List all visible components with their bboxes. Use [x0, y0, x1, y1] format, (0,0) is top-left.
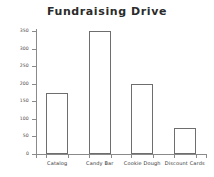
- bar: [46, 93, 68, 155]
- x-tick-mark: [153, 154, 154, 158]
- x-tick-mark: [89, 154, 90, 158]
- y-tick-mark: [32, 101, 36, 102]
- y-tick-mark: [32, 136, 36, 137]
- chart-title: Fundraising Drive: [0, 5, 214, 18]
- bar-chart: Fundraising Drive 050100150200250300350 …: [0, 0, 214, 177]
- y-tick-label: 300: [5, 46, 29, 51]
- y-axis-line: [36, 29, 37, 156]
- y-tick-mark: [32, 66, 36, 67]
- y-tick-label: 100: [5, 116, 29, 121]
- x-tick-label: Catalog: [36, 160, 79, 166]
- y-tick-label: 50: [5, 133, 29, 138]
- bar: [131, 84, 153, 154]
- x-tick-mark: [131, 154, 132, 158]
- y-tick-mark: [32, 119, 36, 120]
- x-axis-end-tick: [206, 154, 207, 158]
- y-tick-label: 350: [5, 28, 29, 33]
- x-tick-mark: [46, 154, 47, 158]
- x-tick-label: Discount Cards: [164, 160, 207, 166]
- x-tick-mark: [196, 154, 197, 158]
- x-tick-mark: [111, 154, 112, 158]
- y-tick-label: 150: [5, 98, 29, 103]
- x-axis-end-tick: [36, 154, 37, 158]
- y-tick-mark: [32, 84, 36, 85]
- y-tick-mark: [32, 49, 36, 50]
- x-tick-label: Candy Bar: [79, 160, 122, 166]
- x-tick-label: Cookie Dough: [121, 160, 164, 166]
- y-tick-mark: [32, 31, 36, 32]
- x-tick-mark: [174, 154, 175, 158]
- y-tick-label: 250: [5, 63, 29, 68]
- y-tick-label: 0: [5, 151, 29, 156]
- x-tick-mark: [68, 154, 69, 158]
- x-axis-line: [36, 154, 206, 155]
- y-tick-label: 200: [5, 81, 29, 86]
- bar: [89, 31, 111, 154]
- bar: [174, 128, 196, 154]
